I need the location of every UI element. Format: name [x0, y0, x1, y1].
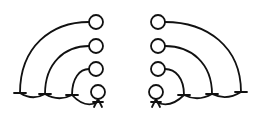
right-node-circle-3: [151, 62, 165, 76]
right-baseline-segment-1: [156, 95, 184, 104]
right-root-figure-leg-left: [152, 99, 156, 107]
mirrored-tree-diagram: [0, 0, 261, 120]
left-root-figure-leg-right: [98, 99, 102, 107]
left-node-circle-1: [89, 15, 103, 29]
left-baseline-segment-1: [72, 95, 98, 104]
right-node-circle-2: [151, 39, 165, 53]
right-branch-arc-3: [165, 22, 241, 92]
left-branch-arc-1: [72, 69, 89, 95]
left-branch-arc-3: [20, 22, 89, 93]
diagram-svg: [0, 0, 261, 120]
left-root-figure-head-icon: [91, 85, 105, 99]
right-branch-arc-1: [165, 69, 184, 95]
left-node-circle-3: [89, 62, 103, 76]
right-root-figure-head-icon: [149, 85, 163, 99]
right-node-circle-1: [151, 15, 165, 29]
left-node-circle-2: [89, 39, 103, 53]
